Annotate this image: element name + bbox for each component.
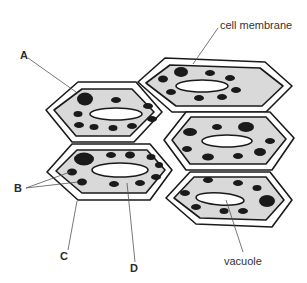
label-vacuole: vacuole: [224, 256, 262, 267]
label-b: B: [14, 183, 22, 194]
cell-top-right: [138, 58, 292, 112]
leader-A: [28, 58, 76, 92]
cell-top-left: [46, 82, 162, 142]
leader-C: [68, 201, 77, 250]
label-cell-membrane: cell membrane: [220, 20, 292, 31]
vacuole: [92, 163, 148, 177]
vacuole: [176, 80, 228, 92]
label-a: A: [20, 50, 28, 61]
leader-cell-membrane: [193, 28, 218, 64]
label-d: D: [130, 263, 138, 274]
label-c: C: [60, 251, 68, 262]
vacuole: [90, 108, 142, 120]
vacuole: [202, 135, 252, 147]
plant-cell-diagram: [0, 0, 307, 283]
